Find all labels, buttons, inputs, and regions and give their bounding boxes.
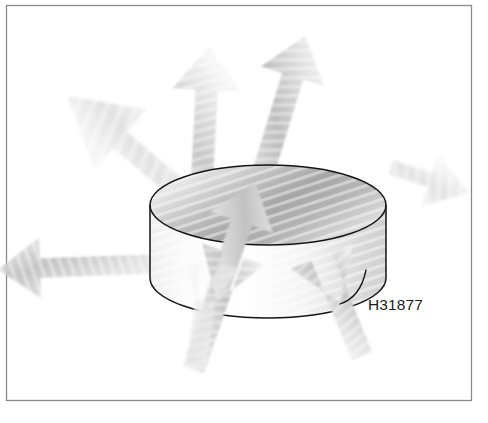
part-number-label: H31877 (368, 296, 423, 313)
figure-canvas: H31877 (0, 0, 488, 423)
technical-illustration: H31877 (0, 0, 488, 423)
cylinder-disc (150, 165, 386, 318)
